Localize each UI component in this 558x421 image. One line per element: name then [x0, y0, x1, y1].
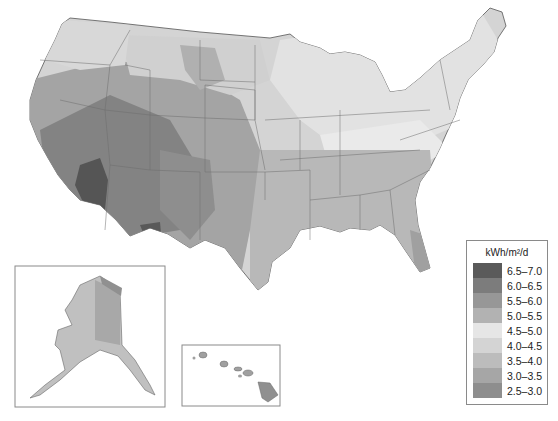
legend-item: 5.0–5.5	[473, 308, 542, 323]
hawaii-inset	[182, 345, 280, 406]
legend-swatch	[473, 278, 502, 293]
legend-label: 6.0–6.5	[507, 280, 542, 292]
legend-swatch	[473, 308, 502, 323]
legend-item: 3.0–3.5	[473, 368, 542, 383]
legend-swatch	[473, 383, 502, 398]
legend-item: 2.5–3.0	[473, 383, 542, 398]
legend-label: 5.0–5.5	[507, 310, 542, 322]
alaska-inset	[15, 266, 165, 407]
legend-swatch	[473, 368, 502, 383]
legend-swatch	[473, 323, 502, 338]
legend-label: 5.5–6.0	[507, 295, 542, 307]
legend-item: 3.5–4.0	[473, 353, 542, 368]
legend-swatch	[473, 263, 502, 278]
legend-item: 6.5–7.0	[473, 263, 542, 278]
legend-title: kWh/m²/d	[467, 247, 547, 258]
legend-item: 4.5–5.0	[473, 323, 542, 338]
legend-item: 6.0–6.5	[473, 278, 542, 293]
legend-item: 5.5–6.0	[473, 293, 542, 308]
legend-label: 3.5–4.0	[507, 355, 542, 367]
legend-label: 4.0–4.5	[507, 340, 542, 352]
legend-item: 4.0–4.5	[473, 338, 542, 353]
legend-label: 4.5–5.0	[507, 325, 542, 337]
legend-label: 6.5–7.0	[507, 265, 542, 277]
legend: kWh/m²/d 6.5–7.0 6.0–6.5 5.5–6.0 5.0–5.5…	[466, 240, 548, 405]
contiguous-us	[30, 8, 510, 300]
legend-swatch	[473, 338, 502, 353]
legend-swatch	[473, 293, 502, 308]
legend-label: 2.5–3.0	[507, 385, 542, 397]
legend-label: 3.0–3.5	[507, 370, 542, 382]
legend-swatch	[473, 353, 502, 368]
